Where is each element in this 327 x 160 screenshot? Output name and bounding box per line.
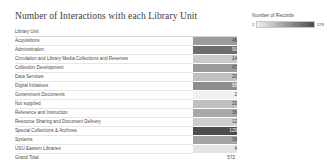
row-value-9[interactable]: 12 — [193, 118, 237, 127]
grand-total-value: 572 — [193, 154, 237, 160]
grand-total-row: Grand Total 572 — [15, 154, 237, 160]
table-row[interactable]: Collection Development47 — [15, 64, 237, 73]
table-row[interactable]: Data Services20 — [15, 73, 237, 82]
table-row[interactable]: Acquisitions46 — [15, 37, 237, 46]
table-row[interactable]: Systems38 — [15, 136, 237, 145]
row-label-10: Special Collections & Archives — [15, 127, 193, 136]
legend-gradient-bar[interactable] — [256, 21, 315, 28]
heatmap-table-container: Library Unit Acquisitions46Administratio… — [15, 28, 237, 159]
table-row[interactable]: Government Documents2 — [15, 91, 237, 100]
grand-total-label: Grand Total — [15, 154, 193, 160]
column-header-library-unit[interactable]: Library Unit — [15, 28, 193, 37]
row-label-3: Collection Development — [15, 64, 193, 73]
row-value-4[interactable]: 20 — [193, 73, 237, 82]
row-value-3[interactable]: 47 — [193, 64, 237, 73]
row-value-6[interactable]: 2 — [193, 91, 237, 100]
column-header-value — [193, 28, 237, 37]
visualization-page: Number of Interactions with each Library… — [0, 0, 327, 159]
row-label-4: Data Services — [15, 73, 193, 82]
row-value-0[interactable]: 46 — [193, 37, 237, 46]
table-row[interactable]: Special Collections & Archives129 — [15, 127, 237, 136]
row-label-5: Digital Initiatives — [15, 82, 193, 91]
row-value-2[interactable]: 14 — [193, 55, 237, 64]
row-label-6: Government Documents — [15, 91, 193, 100]
row-label-0: Acquisitions — [15, 37, 193, 46]
legend-title: Number of Records — [252, 12, 324, 19]
row-label-8: Reference and Instruction — [15, 109, 193, 118]
heatmap-table: Library Unit Acquisitions46Administratio… — [15, 28, 237, 159]
row-label-1: Administration — [15, 46, 193, 55]
table-row[interactable]: Resource Sharing and Document Delivery12 — [15, 118, 237, 127]
row-value-11[interactable]: 38 — [193, 136, 237, 145]
table-header: Library Unit — [15, 28, 237, 37]
row-label-7: Not supplied — [15, 100, 193, 109]
table-row[interactable]: USU Eastern Libraries4 — [15, 145, 237, 154]
table-header-row: Library Unit — [15, 28, 237, 37]
table-row[interactable]: Digital Initiatives58 — [15, 82, 237, 91]
table-row[interactable]: Reference and Instruction36 — [15, 109, 237, 118]
legend-min-value: 2 — [252, 21, 254, 28]
row-value-7[interactable]: 20 — [193, 100, 237, 109]
row-value-12[interactable]: 4 — [193, 145, 237, 154]
row-value-5[interactable]: 58 — [193, 82, 237, 91]
legend-max-value: 129 — [317, 21, 324, 28]
legend-scale: 2 129 — [252, 21, 324, 28]
row-label-9: Resource Sharing and Document Delivery — [15, 118, 193, 127]
table-row[interactable]: Not supplied20 — [15, 100, 237, 109]
row-value-10[interactable]: 129 — [193, 127, 237, 136]
row-label-11: Systems — [15, 136, 193, 145]
legend: Number of Records 2 129 — [252, 12, 324, 28]
table-footer: Grand Total 572 — [15, 154, 237, 160]
table-row[interactable]: Administration91 — [15, 46, 237, 55]
row-label-12: USU Eastern Libraries — [15, 145, 193, 154]
table-body: Acquisitions46Administration91Circulatio… — [15, 37, 237, 154]
row-value-8[interactable]: 36 — [193, 109, 237, 118]
row-label-2: Circulation and Library Media Collection… — [15, 55, 193, 64]
row-value-1[interactable]: 91 — [193, 46, 237, 55]
page-title: Number of Interactions with each Library… — [15, 11, 197, 21]
table-row[interactable]: Circulation and Library Media Collection… — [15, 55, 237, 64]
